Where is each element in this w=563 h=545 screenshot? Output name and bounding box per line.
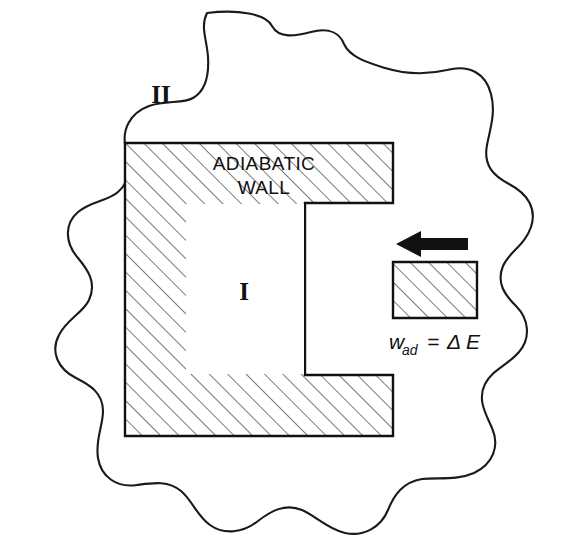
adiabatic-wall-label-line1: ADIABATIC: [213, 153, 316, 174]
work-energy-symbol: E: [466, 330, 481, 353]
adiabatic-wall-label-line2: WALL: [238, 177, 291, 198]
surroundings-label: II: [151, 81, 170, 108]
work-delta-symbol: Δ: [446, 330, 461, 353]
figure-canvas: II ADIABATIC WALL I w ad = Δ E: [0, 0, 563, 545]
piston-rod-group: [388, 257, 483, 323]
piston-rod-hatch-fill: [388, 257, 483, 323]
system-label: I: [239, 278, 249, 305]
work-equals-sign: =: [427, 330, 439, 353]
work-subscript: ad: [402, 342, 419, 358]
thermodynamics-figure: II ADIABATIC WALL I w ad = Δ E: [0, 0, 563, 545]
